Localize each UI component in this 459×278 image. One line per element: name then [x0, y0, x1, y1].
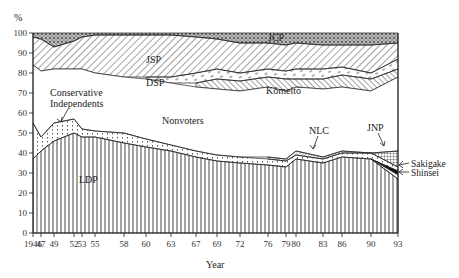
x-tick-label: 86 — [338, 239, 348, 249]
label-nonvoters: Nonvoters — [162, 115, 204, 126]
y-tick-label: 50 — [18, 128, 28, 138]
y-tick-label: 10 — [18, 208, 28, 218]
y-tick-label: 100 — [14, 28, 28, 38]
x-tick-label: 72 — [236, 239, 245, 249]
y-tick-label: 90 — [18, 48, 28, 58]
label-jsp: JSP — [146, 54, 161, 65]
y-tick-label: 60 — [18, 108, 28, 118]
x-tick-label: 47 — [37, 239, 47, 249]
x-tick-label: 49 — [50, 239, 60, 249]
x-tick-label: 90 — [367, 239, 377, 249]
x-tick-label: 83 — [319, 239, 329, 249]
label-nlc: NLC — [309, 125, 329, 136]
x-tick-label: 93 — [394, 239, 404, 249]
y-tick-label: 20 — [18, 188, 28, 198]
y-tick-label: 0 — [23, 228, 28, 238]
x-tick-label: 58 — [120, 239, 130, 249]
stacked-area-chart: 0102030405060708090100194647495253555860… — [0, 0, 459, 278]
label-dsp: DSP — [146, 77, 165, 88]
label-ldp: LDP — [79, 174, 98, 185]
label-shinsei: Shinsei — [411, 168, 439, 178]
label-jcp: JCP — [268, 32, 285, 43]
y-tick-label: 70 — [18, 88, 28, 98]
chart-areas — [33, 33, 398, 233]
x-tick-label: 76 — [264, 239, 274, 249]
x-tick-label: 69 — [213, 239, 223, 249]
label-y-unit: % — [14, 12, 22, 23]
label-conservative-independents-1: Conservative — [50, 87, 103, 98]
y-tick-label: 30 — [18, 168, 28, 178]
y-tick-label: 80 — [18, 68, 28, 78]
x-tick-label: 80 — [292, 239, 302, 249]
y-tick-label: 40 — [18, 148, 28, 158]
label-jnp: JNP — [367, 122, 384, 133]
label-conservative-independents-2: Independents — [50, 98, 103, 109]
x-tick-label: 53 — [78, 239, 88, 249]
x-tick-label: 55 — [91, 239, 101, 249]
x-tick-label: 63 — [167, 239, 177, 249]
label-komeito: Kōmeitō — [266, 85, 301, 96]
x-tick-label: 60 — [142, 239, 152, 249]
x-tick-label: 67 — [192, 239, 202, 249]
x-axis-title: Year — [206, 259, 225, 270]
x-tick-label: 79 — [282, 239, 292, 249]
